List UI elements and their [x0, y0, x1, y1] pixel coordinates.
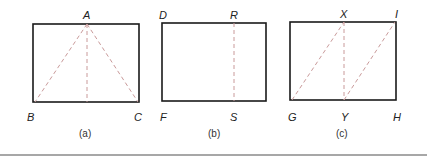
label-f: F: [160, 111, 168, 123]
label-s: S: [230, 111, 238, 123]
label-i: I: [395, 8, 398, 20]
label-y: Y: [341, 111, 349, 123]
panel-c: X I G Y H (c): [288, 8, 401, 139]
panel-b: D R F S (b): [159, 9, 266, 139]
rectangle-c: [290, 22, 396, 100]
panel-a: A B C (a): [27, 9, 142, 139]
label-a: A: [82, 9, 90, 21]
caption-b: (b): [208, 128, 220, 139]
label-g: G: [288, 111, 297, 123]
caption-c: (c): [336, 128, 348, 139]
dashed-line-gx: [292, 22, 344, 100]
figure-canvas: A B C (a) D R F S (b) X I G Y H (c): [0, 0, 427, 159]
label-d: D: [159, 9, 167, 21]
rectangle-b: [162, 23, 266, 101]
label-c: C: [134, 111, 142, 123]
rectangle-a: [33, 24, 139, 102]
dashed-line-yi: [344, 22, 395, 100]
label-b: B: [27, 111, 34, 123]
dashed-line-ac: [87, 24, 138, 102]
dashed-line-ab: [35, 24, 87, 102]
label-h: H: [393, 111, 401, 123]
caption-a: (a): [79, 128, 91, 139]
label-r: R: [230, 9, 238, 21]
label-x: X: [339, 8, 348, 20]
